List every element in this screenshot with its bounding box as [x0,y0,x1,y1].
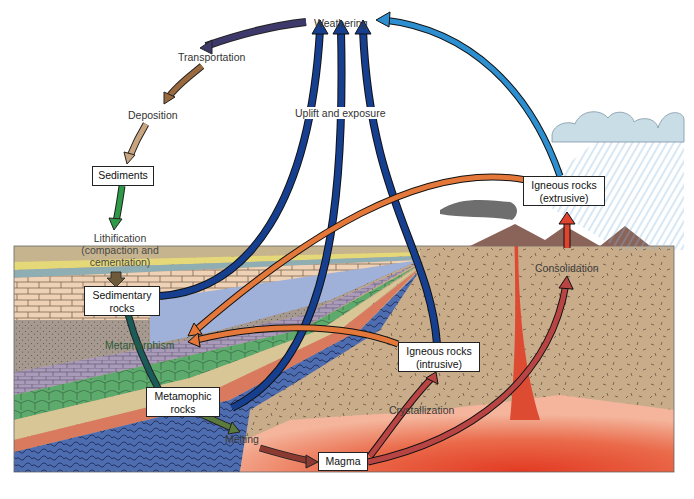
box-igneous-intrusive: Igneous rocks (intrusive) [398,342,480,372]
label-consolidation: Consolidation [535,262,599,274]
box-igneous-extrusive: Igneous rocks (extrusive) [523,176,605,206]
label-deposition: Deposition [128,109,178,121]
box-igneous-extrusive-line2: (extrusive) [529,192,599,205]
label-metamorphism: Metamorphism [105,339,174,351]
box-metamorphic-line2: rocks [152,403,214,416]
box-magma-label: Magma [324,455,362,468]
box-igneous-intrusive-line2: (intrusive) [404,358,474,371]
smoke [440,200,517,220]
box-igneous-intrusive-line1: Igneous rocks [404,345,474,358]
box-sediments-label: Sediments [98,169,148,182]
box-magma: Magma [318,452,368,471]
box-sedimentary-rocks: Sedimentary rocks [84,286,160,316]
box-sedimentary-line1: Sedimentary [90,289,154,302]
label-crystallization: Crystallization [389,404,454,416]
label-lithification: Lithification (compaction and cementatio… [72,232,168,268]
label-weathering: Weathering [314,17,368,29]
label-melting: Melting [225,433,259,445]
box-metamorphic-line1: Metamophic [152,390,214,403]
label-lithification-line3: cementation) [72,256,168,268]
box-sedimentary-line2: rocks [90,302,154,315]
label-lithification-line2: (compaction and [72,244,168,256]
box-sediments: Sediments [92,166,154,186]
box-igneous-extrusive-line1: Igneous rocks [529,179,599,192]
label-transportation: Transportation [178,51,245,63]
label-uplift: Uplift and exposure [295,107,385,119]
label-lithification-line1: Lithification [72,232,168,244]
box-metamorphic-rocks: Metamophic rocks [146,387,220,417]
